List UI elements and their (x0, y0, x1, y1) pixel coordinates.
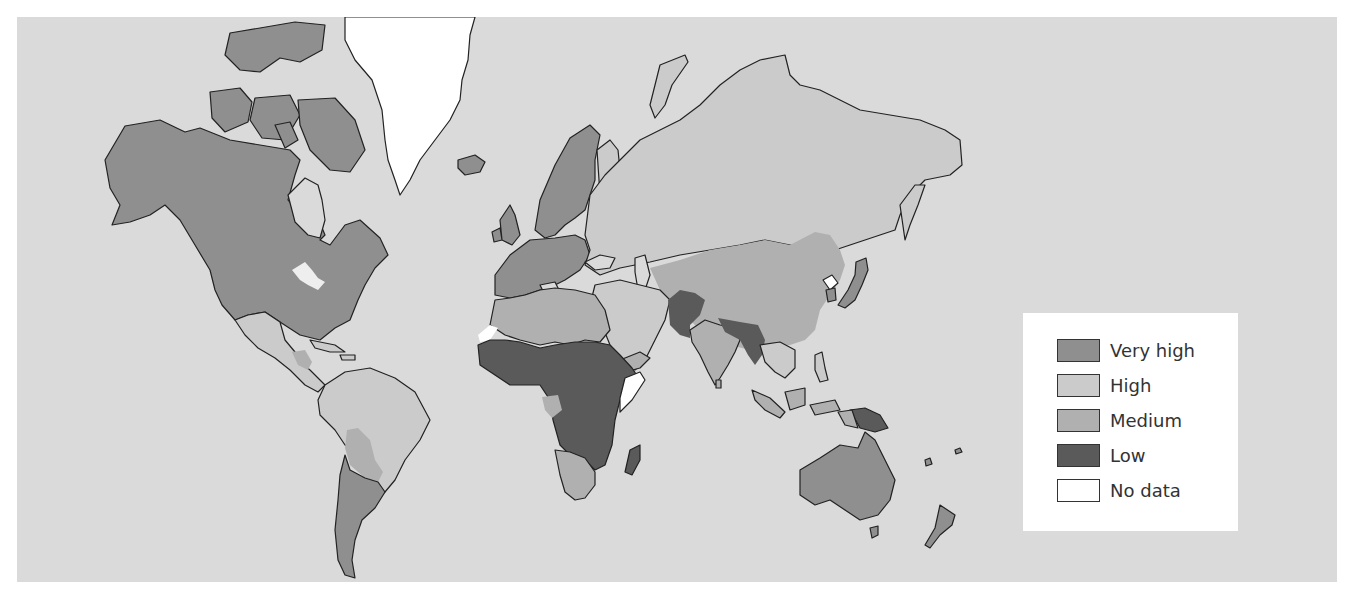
legend-item-medium: Medium (1057, 408, 1182, 432)
legend-item-very-high: Very high (1057, 338, 1195, 362)
region-new-zealand (925, 505, 955, 548)
region-philippines (815, 352, 828, 382)
map-legend: Very high High Medium Low No data (1023, 313, 1238, 531)
legend-label: Medium (1110, 410, 1182, 431)
region-greenland (345, 17, 475, 195)
legend-swatch (1057, 409, 1100, 432)
legend-label: Low (1110, 445, 1145, 466)
legend-item-no-data: No data (1057, 478, 1181, 502)
legend-swatch (1057, 339, 1100, 362)
region-madagascar (625, 445, 640, 475)
region-sri-lanka (716, 380, 721, 388)
legend-label: Very high (1110, 340, 1195, 361)
legend-label: High (1110, 375, 1151, 396)
region-tasmania (870, 526, 878, 538)
legend-item-low: Low (1057, 443, 1145, 467)
region-pacific-islands (925, 448, 962, 466)
region-caribbean (310, 340, 355, 360)
legend-swatch (1057, 374, 1100, 397)
region-southeast-asia (760, 342, 795, 378)
region-iceland (458, 155, 485, 175)
legend-label: No data (1110, 480, 1181, 501)
region-australia (800, 432, 895, 520)
region-novaya-zemlya (650, 55, 688, 118)
legend-swatch (1057, 479, 1100, 502)
region-indonesia (752, 388, 840, 418)
region-uk (492, 205, 520, 245)
legend-swatch (1057, 444, 1100, 467)
legend-item-high: High (1057, 373, 1151, 397)
region-south-korea (826, 288, 836, 302)
